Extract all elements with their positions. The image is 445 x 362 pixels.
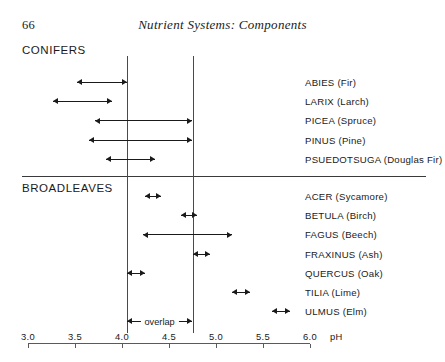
axis-unit-label: pH	[330, 331, 343, 342]
species-row: PSUEDOTSUGA (Douglas Fir)	[0, 153, 445, 167]
ph-range-bar	[53, 95, 111, 109]
axis-tick	[28, 344, 29, 348]
range-shaft	[77, 82, 127, 83]
overlap-arrow-right-icon	[187, 318, 192, 324]
species-label: QUERCUS (Oak)	[305, 267, 383, 281]
species-row: ULMUS (Elm)	[0, 305, 445, 319]
species-row: LARIX (Larch)	[0, 95, 445, 109]
range-shaft	[53, 101, 111, 102]
axis-tick-label: 4.5	[162, 331, 176, 342]
ph-range-bar	[77, 76, 127, 90]
ph-range-bar	[95, 114, 193, 128]
species-row: FAGUS (Beech)	[0, 228, 445, 242]
species-label: LARIX (Larch)	[305, 95, 369, 109]
arrow-right-icon	[187, 137, 192, 143]
arrow-right-icon	[150, 156, 155, 162]
overlap-annotation: overlap	[127, 315, 193, 329]
ph-range-bar	[127, 267, 145, 281]
axis-tick	[216, 344, 217, 348]
species-label: ABIES (Fir)	[305, 76, 356, 90]
ph-range-bar	[193, 248, 211, 262]
ph-tolerance-figure: 66 Nutrient Systems: Components CONIFERS…	[0, 0, 445, 362]
arrow-right-icon	[107, 98, 112, 104]
species-row: PICEA (Spruce)	[0, 114, 445, 128]
arrow-right-icon	[285, 308, 290, 314]
axis-tick-label: 5.0	[209, 331, 223, 342]
arrow-right-icon	[192, 212, 197, 218]
species-label: PSUEDOTSUGA (Douglas Fir)	[305, 153, 442, 167]
species-row: FRAXINUS (Ash)	[0, 248, 445, 262]
species-label: FRAXINUS (Ash)	[305, 248, 383, 262]
axis-tick	[122, 344, 123, 348]
ph-range-bar	[272, 305, 290, 319]
axis-tick-label: 3.5	[68, 331, 82, 342]
range-shaft	[89, 140, 192, 141]
axis-tick	[169, 344, 170, 348]
species-row: BETULA (Birch)	[0, 209, 445, 223]
ph-range-bar	[106, 153, 155, 167]
range-shaft	[106, 159, 155, 160]
arrow-right-icon	[156, 193, 161, 199]
species-label: TILIA (Lime)	[305, 286, 360, 300]
ph-range-bar	[232, 286, 250, 300]
arrow-right-icon	[245, 289, 250, 295]
arrow-right-icon	[205, 251, 210, 257]
ph-range-bar	[89, 134, 192, 148]
axis-tick-label: 3.0	[21, 331, 35, 342]
group-title-conifers: CONIFERS	[22, 44, 86, 56]
arrow-right-icon	[187, 118, 192, 124]
species-row: ACER (Sycamore)	[0, 190, 445, 204]
species-label: PINUS (Pine)	[305, 134, 366, 148]
axis-tick	[310, 344, 311, 348]
species-label: ULMUS (Elm)	[305, 305, 367, 319]
axis-tick	[75, 344, 76, 348]
species-label: ACER (Sycamore)	[305, 190, 388, 204]
arrow-right-icon	[122, 79, 127, 85]
ph-range-bar	[143, 228, 232, 242]
running-head: Nutrient Systems: Components	[0, 17, 445, 33]
ph-range-bar	[181, 209, 197, 223]
arrow-right-icon	[140, 270, 145, 276]
arrow-right-icon	[227, 232, 232, 238]
overlap-label: overlap	[141, 315, 179, 329]
species-row: ABIES (Fir)	[0, 76, 445, 90]
axis-tick	[263, 344, 264, 348]
ph-range-bar	[145, 190, 161, 204]
species-label: FAGUS (Beech)	[305, 228, 377, 242]
species-label: BETULA (Birch)	[305, 209, 376, 223]
range-shaft	[95, 120, 193, 121]
species-row: QUERCUS (Oak)	[0, 267, 445, 281]
species-row: PINUS (Pine)	[0, 134, 445, 148]
species-label: PICEA (Spruce)	[305, 114, 376, 128]
range-shaft	[143, 234, 232, 235]
axis-tick-label: 4.0	[115, 331, 129, 342]
group-divider	[22, 176, 426, 177]
species-row: TILIA (Lime)	[0, 286, 445, 300]
axis-tick-label: 5.5	[256, 331, 270, 342]
axis-tick-label: 6.0	[303, 331, 317, 342]
